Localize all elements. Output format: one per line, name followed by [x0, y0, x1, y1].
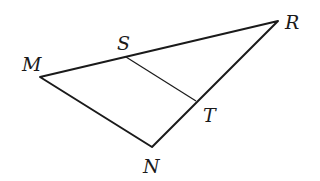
triangle-diagram: M S R T N: [0, 0, 320, 181]
segment-ST: [126, 57, 196, 101]
label-N: N: [142, 155, 161, 177]
label-M: M: [21, 53, 42, 75]
triangle-MRN: [40, 21, 278, 147]
label-R: R: [284, 11, 299, 33]
label-T: T: [203, 104, 217, 126]
label-S: S: [117, 32, 130, 54]
